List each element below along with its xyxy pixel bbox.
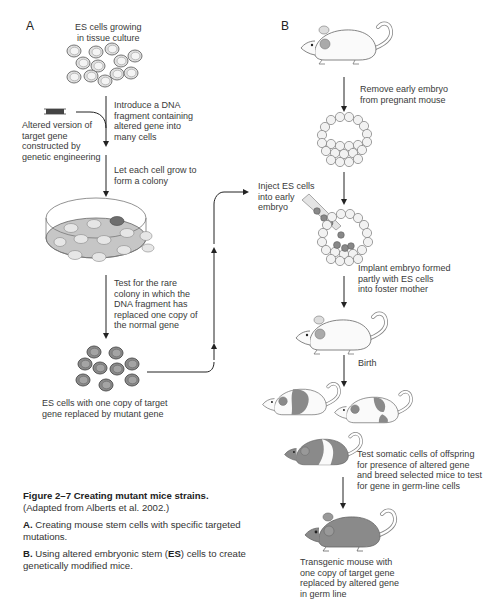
inject-es-cells-label: Inject ES cells into early embryo [258,181,315,213]
chimeric-offspring-2 [335,392,412,423]
figure-title: Creating mutant mice strains. [74,490,209,501]
pregnant-mouse [301,24,391,64]
figure-caption: Figure 2–7 Creating mutant mice strains.… [23,490,253,577]
caption-a-text: Creating mouse stem cells with specific … [23,519,241,542]
transgenic-mouse-label: Transgenic mouse with one copy of target… [300,557,399,599]
foster-mother-mouse [296,314,386,354]
petri-dish [46,198,154,262]
panel-a-letter: A [26,19,34,33]
selected-offspring [285,434,362,465]
mutant-es-cells-cluster [76,346,139,391]
remove-embryo-label: Remove early embryo from pregnant mouse [360,84,448,105]
implant-embryo-label: Implant embryo formed partly with ES cel… [358,263,451,295]
birth-label: Birth [358,358,377,369]
figure-number: Figure 2–7 [23,490,71,501]
transgenic-mouse [305,511,395,551]
chimeric-offspring-1 [263,384,340,415]
es-cells-cluster [67,43,142,87]
caption-b-letter: B. [23,548,33,559]
es-cells-growing-label: ES cells growing in tissue culture [75,22,142,43]
mutant-es-cells-label: ES cells with one copy of target gene re… [42,398,168,419]
dna-fragment-icon [44,109,66,114]
grow-colony-label: Let each cell grow to form a colony [114,165,197,186]
caption-a-letter: A. [23,519,33,530]
altered-version-label: Altered version of target gene construct… [22,120,101,162]
caption-b-es: ES [168,548,181,559]
figure-source: (Adapted from Alberts et al. 2002.) [23,502,169,513]
introduce-dna-label: Introduce a DNA fragment containing alte… [114,100,193,142]
early-embryo [317,112,371,166]
panel-b-letter: B [281,19,289,33]
test-rare-colony-label: Test for the rare colony in which the DN… [114,278,198,331]
test-somatic-cells-label: Test somatic cells of offspring for pres… [357,449,482,491]
caption-b-text-1: Using altered embryonic stem ( [35,548,168,559]
